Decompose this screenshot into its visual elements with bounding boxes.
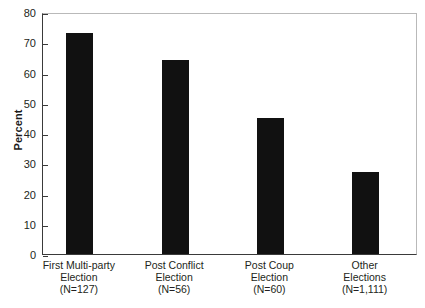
y-axis-tick (43, 165, 48, 166)
x-axis-tick-label: OtherElections(N=1,111) (305, 259, 425, 296)
y-axis-tick (43, 226, 48, 227)
y-axis-tick-label: 20 (0, 189, 36, 201)
bar (352, 172, 379, 254)
y-axis-tick (43, 14, 48, 15)
plot-area (43, 14, 416, 254)
y-axis-tick (43, 256, 48, 257)
y-axis-tick-label: 10 (0, 219, 36, 231)
x-axis-tick-label-line: (N=1,111) (305, 283, 425, 295)
y-axis-tick (43, 105, 48, 106)
y-axis-tick (43, 196, 48, 197)
y-axis-tick-label: 40 (0, 128, 36, 140)
y-axis-tick (43, 44, 48, 45)
bar (162, 60, 189, 254)
bar-chart: Percent 80706050403020100 First Multi-pa… (0, 0, 425, 308)
y-axis-tick-label: 60 (0, 68, 36, 80)
y-axis-tick (43, 75, 48, 76)
y-axis-tick-label: 50 (0, 98, 36, 110)
y-axis-tick-label: 80 (0, 7, 36, 19)
y-axis-tick (43, 135, 48, 136)
y-axis-tick-label: 70 (0, 37, 36, 49)
y-axis-tick-label: 30 (0, 158, 36, 170)
plot-frame (42, 13, 417, 255)
bar (66, 33, 93, 254)
bar (257, 118, 284, 254)
x-axis-tick-label-line: Other (305, 259, 425, 271)
x-axis-tick-label-line: Elections (305, 271, 425, 283)
